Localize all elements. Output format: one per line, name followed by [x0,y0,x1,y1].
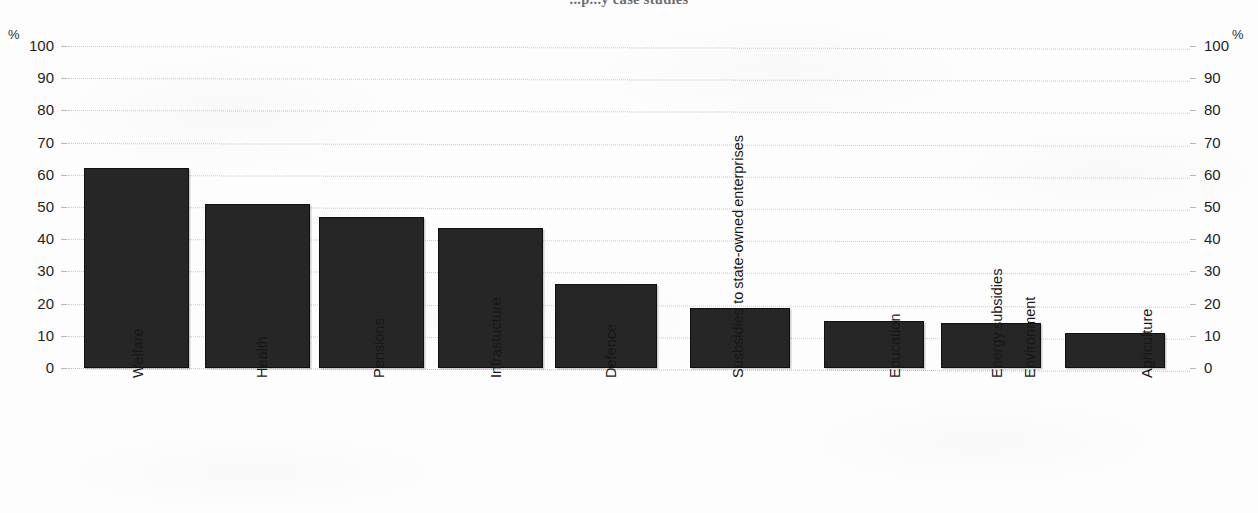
y-axis-unit-right: % [1232,28,1244,41]
x-axis-label-line: Energy [990,332,1005,378]
x-axis-label-line: enterprises [731,135,746,207]
gridline-60 [68,175,1190,180]
y-tick-label-right-50: 50 [1204,199,1221,214]
x-axis-label-line: state-owned [731,210,746,289]
x-axis-label-line: Education [888,314,903,379]
y-tick-label-left-0: 0 [8,360,54,375]
x-axis-label-agriculture: Agriculture [1140,309,1155,378]
y-tick-label-right-40: 40 [1204,231,1221,246]
y-tick-label-right-70: 70 [1204,135,1221,150]
x-axis-label-line: Health [255,336,270,378]
y-tick-label-right-100: 100 [1204,38,1229,53]
tick-mark-left-90 [61,78,67,79]
tick-mark-left-0 [61,368,67,369]
tick-mark-left-10 [61,336,67,337]
x-axis-label-defence: Defence [604,324,619,378]
x-axis-label-welfare: Welfare [131,328,146,378]
tick-mark-left-60 [61,175,67,176]
x-axis-label-education: Education [888,314,903,379]
tick-mark-left-20 [61,304,67,305]
y-tick-label-right-0: 0 [1204,360,1212,375]
y-tick-label-left-70: 70 [8,135,54,150]
gridline-80 [68,110,1190,115]
chart-page: ...p...y case studies % % 10010090908080… [0,0,1258,513]
y-tick-label-right-10: 10 [1204,328,1221,343]
tick-mark-right-10 [1190,336,1196,337]
gridline-70 [68,143,1190,148]
x-axis-label-susbsidies-to-state-owned-enterprises: Susbsidies tostate-ownedenterprises [731,135,746,378]
tick-mark-left-50 [61,207,67,208]
y-tick-label-left-20: 20 [8,296,54,311]
tick-mark-left-100 [61,46,67,47]
tick-mark-left-40 [61,239,67,240]
x-axis-label-pensions: Pensions [372,318,387,378]
x-axis-label-line: Welfare [131,328,146,378]
gridline-90 [68,78,1190,83]
y-tick-label-left-100: 100 [8,38,54,53]
y-tick-label-right-20: 20 [1204,296,1221,311]
y-tick-label-left-30: 30 [8,263,54,278]
y-tick-label-left-60: 60 [8,167,54,182]
tick-mark-right-20 [1190,304,1196,305]
x-axis-label-line: subsidies [990,269,1005,329]
chart-title: ...p...y case studies [0,0,1258,9]
x-axis-label-infrastucture: Infrastucture [489,297,504,378]
x-axis-label-line: Susbsidies to [731,292,746,378]
x-axis-label-line: Pensions [372,318,387,378]
x-axis-label-health: Health [255,336,270,378]
gridline-100 [68,46,1190,51]
tick-mark-right-40 [1190,239,1196,240]
tick-mark-right-100 [1190,46,1196,47]
y-tick-label-right-30: 30 [1204,263,1221,278]
tick-mark-right-90 [1190,78,1196,79]
tick-mark-left-70 [61,143,67,144]
x-axis-label-environment: Environment [1023,297,1038,378]
bar-education[interactable] [824,321,924,368]
tick-mark-right-60 [1190,175,1196,176]
tick-mark-left-80 [61,110,67,111]
x-axis-label-energy-subsidies: Energysubsidies [990,269,1005,378]
tick-mark-right-30 [1190,271,1196,272]
y-tick-label-right-60: 60 [1204,167,1221,182]
tick-mark-right-70 [1190,143,1196,144]
y-tick-label-left-80: 80 [8,102,54,117]
y-tick-label-right-80: 80 [1204,102,1221,117]
x-axis-label-line: Environment [1023,297,1038,378]
y-tick-label-left-90: 90 [8,70,54,85]
tick-mark-right-0 [1190,368,1196,369]
y-tick-label-left-10: 10 [8,328,54,343]
y-tick-label-left-50: 50 [8,199,54,214]
y-tick-label-right-90: 90 [1204,70,1221,85]
x-axis-label-line: Defence [604,324,619,378]
x-axis-label-line: Agriculture [1140,309,1155,378]
x-axis-label-line: Infrastucture [489,297,504,378]
y-tick-label-left-40: 40 [8,231,54,246]
tick-mark-right-80 [1190,110,1196,111]
tick-mark-left-30 [61,271,67,272]
tick-mark-right-50 [1190,207,1196,208]
